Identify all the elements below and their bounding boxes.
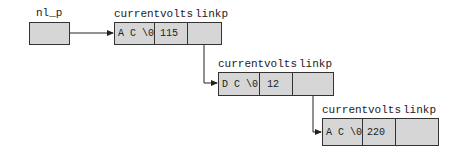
node2-linkp [293, 73, 333, 95]
node2-header-linkp: linkp [299, 58, 332, 70]
node3-header-linkp: linkp [403, 104, 436, 116]
list-node-3: A C \0 220 [322, 118, 439, 146]
node3-linkp-null [396, 119, 438, 145]
node1-linkp [188, 23, 221, 44]
node3-header-current: current [322, 104, 368, 116]
node2-volts: 12 [260, 73, 293, 95]
node1-header-current: current [114, 8, 160, 20]
node3-header-volts: volts [368, 104, 401, 116]
node1-current: A C \0 [115, 23, 155, 44]
list-node-1: A C \0 115 [114, 22, 222, 45]
node1-volts: 115 [155, 23, 188, 44]
node2-header-volts: volts [264, 58, 297, 70]
pointer-label: nl_p [36, 7, 62, 19]
node3-current: A C \0 [323, 119, 363, 145]
node2-current: D C \0 [219, 73, 260, 95]
head-pointer-box [29, 22, 70, 45]
node1-header-volts: volts [160, 8, 193, 20]
list-node-2: D C \0 12 [218, 72, 334, 96]
node1-header-linkp: linkp [195, 8, 228, 20]
node2-header-current: current [218, 58, 264, 70]
node3-volts: 220 [363, 119, 396, 145]
